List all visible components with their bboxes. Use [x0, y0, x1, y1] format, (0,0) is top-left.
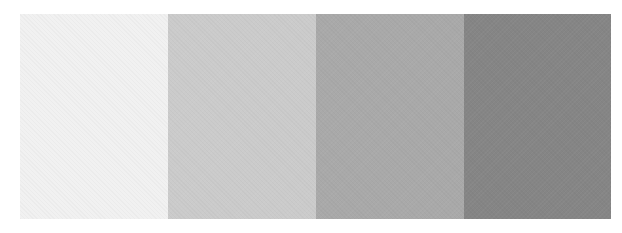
canvas [0, 0, 622, 233]
swatch-medium [316, 14, 464, 219]
swatch-light [168, 14, 316, 219]
swatch-dark [464, 14, 611, 219]
grayscale-palette [20, 14, 611, 219]
swatch-lightest [20, 14, 168, 219]
